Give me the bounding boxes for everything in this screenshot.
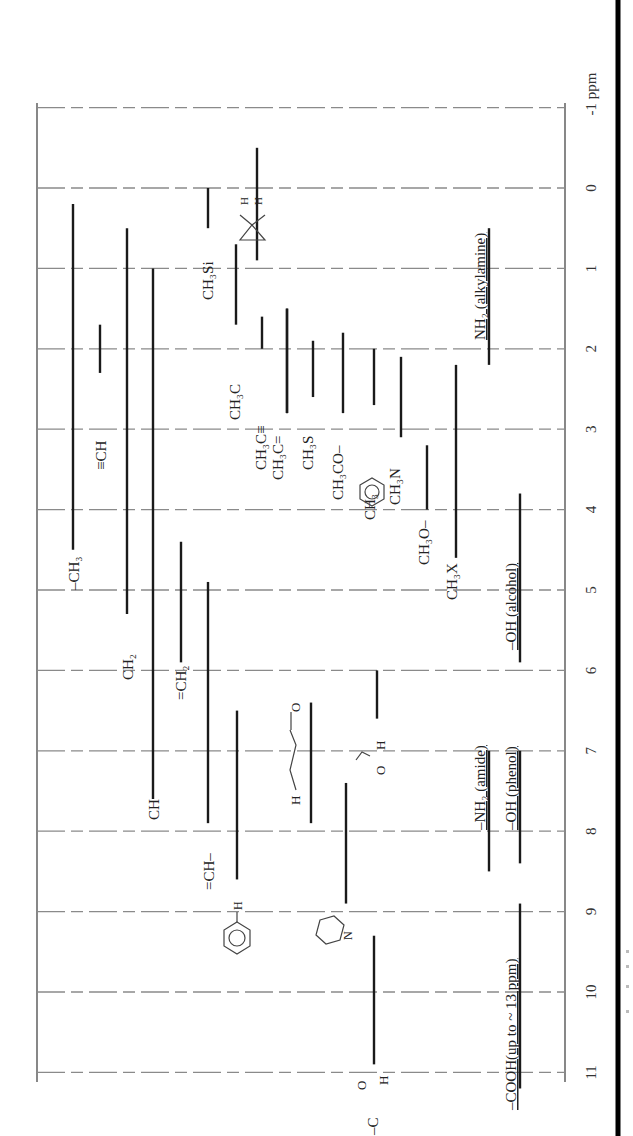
tick-label: 6 (583, 666, 599, 674)
label-ch3: –CH₃ (66, 556, 82, 591)
formyl-h-icon: O H (356, 741, 388, 775)
svg-text:H: H (376, 1076, 391, 1085)
label-ch3ctriple: CH₃C≡ (253, 425, 269, 470)
label-ech: ≡CH (93, 441, 109, 470)
tick-labels: -1 ppm01234567891011 (583, 72, 599, 1079)
svg-text:H: H (231, 901, 245, 910)
label-oh-phenol: –OH (phenol) (503, 746, 520, 831)
label-ch3n: CH₃N (387, 468, 403, 505)
label-oh-alcohol: –OH (alcohol) (503, 563, 520, 651)
svg-text:O: O (288, 703, 303, 712)
label-ch3s: CH₃S (300, 436, 316, 470)
partial-caption-fragment (626, 950, 629, 1013)
label-cooh: –COOH(up to ~ 13 ppm) (503, 959, 520, 1111)
label-eqch2: =CH₂ (173, 665, 189, 700)
label-ch3si: CH₃Si (200, 261, 216, 300)
tick-label: 8 (583, 827, 599, 835)
label-nh2-alkylamine: NH₂ (alkylamine) (472, 233, 489, 340)
label-ch3co: CH₃CO– (330, 445, 346, 500)
label-ch3x: CH₃X (444, 563, 460, 600)
tick-label: 4 (583, 505, 599, 513)
tick-label: 9 (583, 908, 599, 916)
label-ch3cdouble: CH₃C= (270, 435, 286, 480)
group-labels: –CH₃ ≡CH CH₂ CH =CH₂ =CH– CH₃Si CH₃C CH₃… (66, 233, 520, 1111)
label-ch3c: CH₃C (227, 384, 243, 420)
shift-range-bars (73, 148, 520, 1089)
pyridine-ring-icon: N (316, 916, 355, 944)
tick-label: 5 (583, 586, 599, 594)
label-ch: CH (146, 799, 162, 820)
label-ch3o: CH₃O– (416, 520, 432, 565)
tick-label: 11 (583, 1065, 599, 1079)
cis-enal-icon: O H (288, 703, 303, 805)
svg-text:O: O (354, 1081, 369, 1090)
label-nh2-amide: –NH₂ (amide) (472, 745, 489, 831)
tick-label: -1 ppm (583, 72, 599, 115)
tick-label: 7 (583, 747, 599, 755)
label-eqch: =CH– (201, 853, 217, 890)
svg-text:O: O (373, 766, 388, 775)
tick-label: 2 (583, 345, 599, 353)
aldehyde-icon: –C O H (354, 1076, 391, 1136)
svg-text:H: H (373, 741, 388, 750)
label-ch2: CH₂ (120, 654, 136, 680)
svg-text:H: H (238, 197, 250, 205)
svg-text:H: H (288, 796, 303, 805)
benzene-ring-icon: H (224, 901, 250, 954)
nmr-shift-chart: -1 ppm01234567891011 –CH₃ ≡CH CH₂ CH =CH… (0, 0, 633, 1136)
svg-text:–C: –C (365, 1117, 381, 1136)
svg-text:N: N (341, 931, 355, 940)
svg-text:H: H (252, 197, 264, 205)
tick-label: 0 (583, 184, 599, 192)
tick-label: 1 (583, 265, 599, 273)
tick-label: 10 (583, 985, 599, 1000)
cyclopropane-icon: H H (238, 197, 265, 240)
tick-label: 3 (583, 425, 599, 433)
